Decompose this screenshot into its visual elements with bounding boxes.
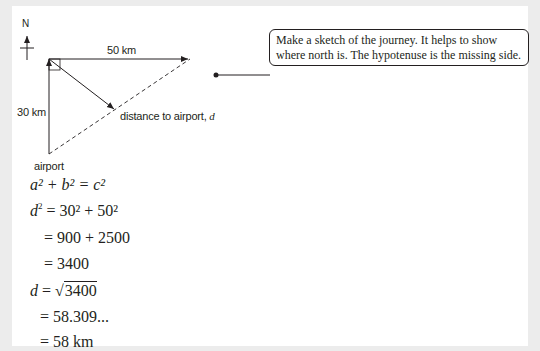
compass-north-label: N [22,18,29,29]
north-distance-label: 30 km [17,106,46,118]
hypotenuse-label: distance to airport, d [120,110,215,122]
east-distance-label: 50 km [107,44,136,56]
north-compass-icon [20,36,34,60]
equation-substitution: d2 = 30² + 50² [30,202,118,220]
equation-sum: = 3400 [44,255,89,273]
airport-label: airport [34,160,64,172]
worked-example-page: N 50 km 30 km distance to airport, d air… [12,6,528,346]
equation-square-root: d = √3400 [30,282,97,300]
equation-pythagoras: a² + b² = c² [30,176,105,194]
equation-decimal: = 58.309... [40,308,109,326]
hint-callout: Make a sketch of the journey. It helps t… [269,29,529,66]
equation-answer: = 58 km [40,333,93,351]
equation-squares: = 900 + 2500 [44,229,130,247]
hypotenuse-variable: d [209,110,214,122]
